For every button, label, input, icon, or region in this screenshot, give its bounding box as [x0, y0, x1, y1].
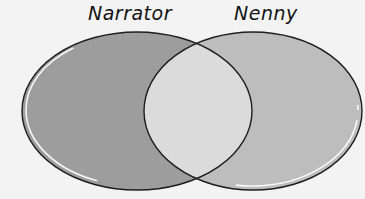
label-nenny: Nenny	[234, 2, 298, 24]
venn-diagram: Narrator Nenny	[0, 0, 365, 199]
venn-svg	[0, 0, 365, 199]
label-narrator: Narrator	[88, 2, 172, 24]
